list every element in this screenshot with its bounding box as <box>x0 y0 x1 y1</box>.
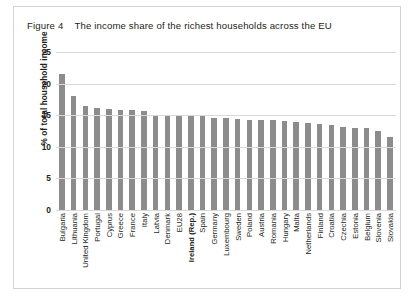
gridline-5: 5 <box>56 178 396 179</box>
x-tick-label: EU28 <box>175 213 184 232</box>
bar-slot <box>232 52 244 210</box>
x-label-slot: Latvia <box>150 213 162 287</box>
x-label-slot: Finland <box>314 213 326 287</box>
x-tick-label: Finland <box>315 213 324 238</box>
bar-slot <box>161 52 173 210</box>
x-tick-label: Spain <box>198 213 207 233</box>
bar-slot <box>173 52 185 210</box>
x-tick-label: Sweden <box>233 213 242 241</box>
bar-slot <box>290 52 302 210</box>
x-label-slot: Sweden <box>232 213 244 287</box>
bar <box>247 120 253 210</box>
x-label-slot: United Kingdom <box>79 213 91 287</box>
bar-slot <box>79 52 91 210</box>
x-tick-label: Netherlands <box>303 213 312 255</box>
x-tick-label: Estonia <box>350 213 359 239</box>
x-label-slot: Slovakia <box>384 213 396 287</box>
bar <box>317 124 323 210</box>
x-tick-label: Slovakia <box>385 213 394 242</box>
bar <box>235 119 241 210</box>
plot-area: 0510152025 <box>56 52 396 210</box>
bar <box>375 131 381 210</box>
x-label-slot: France <box>126 213 138 287</box>
bar <box>340 127 346 210</box>
x-label-slot: Italy <box>138 213 150 287</box>
x-tick-label: Cyprus <box>104 213 113 237</box>
x-label-slot: Ireland (Rep.) <box>185 213 197 287</box>
bar-slot <box>185 52 197 210</box>
x-tick-label: Germany <box>210 213 219 245</box>
x-label-slot: EU28 <box>173 213 185 287</box>
x-label-slot: Bulgaria <box>56 213 68 287</box>
x-label-slot: Czechia <box>337 213 349 287</box>
bar <box>188 116 194 210</box>
bar <box>94 108 100 210</box>
y-tick-label: 15 <box>42 110 51 120</box>
bar <box>293 122 299 210</box>
bar <box>282 121 288 210</box>
y-tick-label: 25 <box>42 47 51 57</box>
x-axis-labels: BulgariaLithuaniaUnited KingdomPortugalC… <box>56 213 396 287</box>
y-tick-label: 20 <box>42 79 51 89</box>
x-label-slot: Romania <box>267 213 279 287</box>
x-tick-label: Ireland (Rep.) <box>186 213 195 262</box>
gridline-10: 10 <box>56 147 396 148</box>
bar-slot <box>56 52 68 210</box>
bar-slot <box>279 52 291 210</box>
bar-slot <box>384 52 396 210</box>
bar <box>211 118 217 210</box>
x-label-slot: Malta <box>290 213 302 287</box>
gridline-25: 25 <box>56 52 396 53</box>
bar-slot <box>314 52 326 210</box>
bar-slot <box>115 52 127 210</box>
gridline-20: 20 <box>56 84 396 85</box>
bar-slot <box>150 52 162 210</box>
bar-slot <box>337 52 349 210</box>
bar-slot <box>220 52 232 210</box>
bar <box>129 110 135 210</box>
bar-slot <box>349 52 361 210</box>
x-tick-label: Hungary <box>280 213 289 242</box>
bar <box>59 74 65 211</box>
x-tick-label: Slovenia <box>374 213 383 243</box>
y-tick-label: 10 <box>42 142 51 152</box>
x-label-slot: Portugal <box>91 213 103 287</box>
bar <box>141 111 147 210</box>
x-label-slot: Estonia <box>349 213 361 287</box>
bar-slot <box>126 52 138 210</box>
bar-slot <box>326 52 338 210</box>
bar-slot <box>267 52 279 210</box>
x-tick-label: Latvia <box>151 213 160 234</box>
x-tick-label: Luxembourg <box>221 213 230 256</box>
x-tick-label: Malta <box>292 213 301 232</box>
bar <box>83 106 89 210</box>
x-tick-label: Romania <box>268 213 277 244</box>
bar-slot <box>91 52 103 210</box>
bar <box>106 109 112 210</box>
bar <box>305 123 311 210</box>
x-tick-label: Bulgaria <box>57 213 66 241</box>
bar <box>352 128 358 210</box>
bar-slot <box>197 52 209 210</box>
bar <box>165 115 171 210</box>
x-tick-label: Croatia <box>327 213 336 238</box>
x-label-slot: Germany <box>208 213 220 287</box>
bar-slot <box>255 52 267 210</box>
x-label-slot: Austria <box>255 213 267 287</box>
bars-group <box>56 52 396 210</box>
bar-slot <box>372 52 384 210</box>
x-label-slot: Cyprus <box>103 213 115 287</box>
bar-slot <box>103 52 115 210</box>
x-label-slot: Hungary <box>279 213 291 287</box>
bar <box>153 115 159 210</box>
bar-slot <box>208 52 220 210</box>
bar <box>200 116 206 210</box>
bar <box>71 96 77 210</box>
x-tick-label: Portugal <box>93 213 102 242</box>
x-label-slot: Luxembourg <box>220 213 232 287</box>
x-tick-label: Poland <box>245 213 254 237</box>
x-tick-label: Czechia <box>339 213 348 241</box>
y-tick-label: 0 <box>46 205 51 215</box>
x-tick-label: Italy <box>139 213 148 227</box>
x-label-slot: Greece <box>115 213 127 287</box>
